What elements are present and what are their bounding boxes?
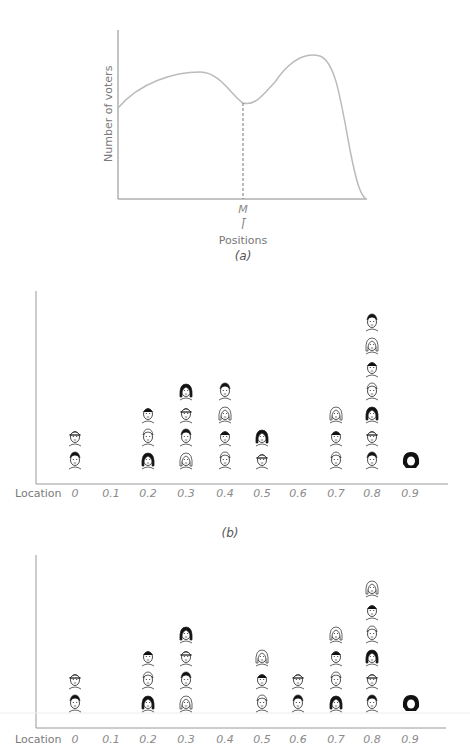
- voter-face-icon: [139, 693, 157, 713]
- voter-face-icon: [177, 450, 195, 470]
- voter-face-icon: [253, 693, 271, 713]
- x-tick-label: 0.6: [289, 733, 307, 746]
- median-marker-sub: l̄: [241, 218, 244, 232]
- voter-face-icon: [363, 670, 381, 690]
- voter-face-icon: [66, 427, 84, 447]
- panel-a-chart: [0, 0, 470, 260]
- x-tick-label: 0.7: [327, 487, 345, 500]
- voter-face-icon: [327, 670, 345, 690]
- x-tick-label: 0.5: [253, 733, 271, 746]
- voter-face-icon: [66, 450, 84, 470]
- x-tick-label: 0.2: [139, 487, 157, 500]
- voter-face-icon: [363, 335, 381, 355]
- x-tick-label: 0.9: [401, 487, 419, 500]
- voter-face-icon: [363, 601, 381, 621]
- voter-face-icon: [253, 427, 271, 447]
- voter-face-icon: [363, 427, 381, 447]
- voter-face-icon: [253, 647, 271, 667]
- x-tick-label: 0.7: [327, 733, 345, 746]
- x-tick-label: 0.9: [401, 733, 419, 746]
- voter-face-icon: [327, 450, 345, 470]
- voter-distribution-curve: [118, 55, 366, 199]
- panel-a-ylabel: Number of voters: [102, 66, 115, 162]
- voter-face-icon: [177, 404, 195, 424]
- panel-a-xlabel: Positions: [219, 234, 268, 247]
- voter-face-icon: [363, 381, 381, 401]
- x-tick-label: 0.4: [216, 487, 234, 500]
- median-marker-label: M: [238, 203, 248, 216]
- voter-face-icon: [363, 358, 381, 378]
- voter-face-icon: [253, 670, 271, 690]
- voter-face-icon: [139, 670, 157, 690]
- voter-face-icon: [363, 404, 381, 424]
- x-tick-label: 0.4: [216, 733, 234, 746]
- x-tick-label: 0: [72, 733, 79, 746]
- voter-face-icon: [139, 404, 157, 424]
- voter-face-icon: [216, 450, 234, 470]
- x-tick-label: 0.8: [363, 733, 381, 746]
- voter-face-icon: [177, 381, 195, 401]
- panel-b-axis-label: Location: [15, 487, 62, 500]
- x-tick-label: 0.2: [139, 733, 157, 746]
- voter-face-icon: [177, 670, 195, 690]
- voter-face-icon: [289, 693, 307, 713]
- x-tick-label: 0.3: [177, 733, 195, 746]
- voter-face-icon: [401, 450, 419, 470]
- voter-face-icon: [363, 578, 381, 598]
- voter-face-icon: [327, 693, 345, 713]
- voter-face-icon: [363, 693, 381, 713]
- x-tick-label: 0.5: [253, 487, 271, 500]
- x-tick-label: 0.1: [102, 487, 120, 500]
- voter-face-icon: [139, 647, 157, 667]
- x-tick-label: 0.8: [363, 487, 381, 500]
- voter-face-icon: [327, 624, 345, 644]
- voter-face-icon: [401, 693, 419, 713]
- voter-face-icon: [177, 647, 195, 667]
- x-tick-label: 0.6: [289, 487, 307, 500]
- panel-c-axis-label: Location: [15, 733, 62, 746]
- voter-face-icon: [253, 450, 271, 470]
- voter-face-icon: [216, 427, 234, 447]
- voter-face-icon: [289, 670, 307, 690]
- x-tick-label: 0.3: [177, 487, 195, 500]
- voter-face-icon: [363, 647, 381, 667]
- panel-b-caption: (b): [222, 526, 239, 540]
- x-tick-label: 0: [72, 487, 79, 500]
- panel-a-caption: (a): [235, 249, 252, 263]
- voter-face-icon: [177, 624, 195, 644]
- voter-face-icon: [363, 450, 381, 470]
- voter-face-icon: [177, 427, 195, 447]
- voter-face-icon: [216, 404, 234, 424]
- voter-face-icon: [363, 312, 381, 332]
- voter-face-icon: [139, 450, 157, 470]
- voter-face-icon: [327, 647, 345, 667]
- voter-face-icon: [139, 427, 157, 447]
- voter-face-icon: [327, 404, 345, 424]
- voter-face-icon: [363, 624, 381, 644]
- voter-face-icon: [66, 693, 84, 713]
- voter-face-icon: [327, 427, 345, 447]
- x-tick-label: 0.1: [102, 733, 120, 746]
- voter-face-icon: [66, 670, 84, 690]
- voter-face-icon: [216, 381, 234, 401]
- voter-face-icon: [177, 693, 195, 713]
